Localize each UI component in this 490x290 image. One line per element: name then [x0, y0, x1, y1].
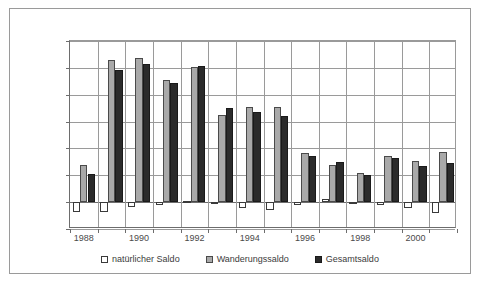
x-axis-tick: [125, 229, 126, 233]
x-axis-tick: [346, 229, 347, 233]
gridline-x: [429, 41, 430, 227]
bar-1997-series-2: [336, 162, 343, 202]
bar-1996-series-0: [294, 202, 301, 205]
gridline-x: [181, 41, 182, 227]
gridline-y: [70, 68, 455, 69]
bar-1999-series-2: [392, 158, 399, 202]
x-axis-tick-label: 1996: [277, 234, 332, 243]
bar-1997-series-1: [329, 165, 336, 203]
bar-1989-series-1: [108, 60, 115, 202]
gridline-y: [70, 95, 455, 96]
bar-1989-series-2: [115, 70, 122, 202]
bar-1988-series-2: [88, 174, 95, 202]
x-axis-tick: [319, 229, 320, 233]
bar-1989-series-0: [100, 202, 107, 211]
gridline-x: [125, 41, 126, 227]
y-axis-tick: [66, 175, 70, 176]
gridline-x: [319, 41, 320, 227]
x-axis-tick: [236, 229, 237, 233]
chart-frame: 120.000100.00080.00060.00040.00020.0000-…: [9, 8, 471, 274]
bar-1999-series-1: [384, 156, 391, 202]
bar-2000-series-0: [404, 202, 411, 207]
bar-1993-series-0: [211, 202, 218, 204]
bar-1998-series-1: [357, 173, 364, 203]
bar-2000-series-2: [419, 166, 426, 202]
x-axis-tick: [374, 229, 375, 233]
bar-1990-series-2: [143, 64, 150, 202]
bar-1995-series-2: [281, 116, 288, 203]
x-axis-tick-label: 2000: [388, 234, 443, 243]
x-axis-tick-label: 1990: [111, 234, 166, 243]
legend-item-0[interactable]: natürlicher Saldo: [101, 254, 180, 264]
chart-legend: natürlicher SaldoWanderungssaldoGesamtsa…: [10, 254, 470, 264]
bar-1991-series-1: [163, 80, 170, 202]
bar-1991-series-2: [170, 83, 177, 202]
gridline-y: [70, 122, 455, 123]
bar-1991-series-0: [156, 202, 163, 205]
x-axis-tick-label: 1988: [56, 234, 111, 243]
x-axis-tick: [429, 229, 430, 233]
y-axis-tick: [66, 41, 70, 42]
bar-2001-series-2: [447, 163, 454, 203]
x-axis-tick-label: 1992: [167, 234, 222, 243]
legend-swatch-icon: [101, 256, 108, 263]
x-axis-tick: [70, 229, 71, 233]
gridline-x: [153, 41, 154, 227]
bar-1992-series-1: [191, 67, 198, 203]
bar-1994-series-0: [239, 202, 246, 207]
legend-item-1[interactable]: Wanderungssaldo: [206, 254, 289, 264]
legend-label: Gesamtsaldo: [326, 254, 379, 264]
bar-1994-series-2: [253, 112, 260, 202]
gridline-x: [236, 41, 237, 227]
gridline-x: [264, 41, 265, 227]
x-axis-tick: [98, 229, 99, 233]
gridline-x: [402, 41, 403, 227]
plot-area: 120.000100.00080.00060.00040.00020.0000-…: [69, 40, 456, 228]
legend-label: natürlicher Saldo: [112, 254, 180, 264]
legend-label: Wanderungssaldo: [217, 254, 289, 264]
bar-1997-series-0: [322, 199, 329, 202]
bar-1995-series-0: [266, 202, 273, 210]
bar-1993-series-2: [226, 108, 233, 202]
bar-1998-series-2: [364, 175, 371, 203]
bar-1992-series-0: [183, 201, 190, 203]
y-axis-tick: [66, 68, 70, 69]
bar-1999-series-0: [377, 202, 384, 205]
gridline-y: [70, 229, 455, 230]
x-axis-tick: [181, 229, 182, 233]
legend-swatch-icon: [206, 256, 213, 263]
bar-2001-series-0: [432, 202, 439, 213]
x-axis-tick-label: 1998: [333, 234, 388, 243]
x-axis-tick: [457, 229, 458, 233]
gridline-y: [70, 148, 455, 149]
bar-1988-series-1: [80, 165, 87, 203]
y-axis-tick: [66, 122, 70, 123]
y-axis-tick: [66, 148, 70, 149]
x-axis-tick: [208, 229, 209, 233]
bar-1996-series-2: [309, 156, 316, 202]
gridline-x: [291, 41, 292, 227]
gridline-y: [70, 41, 455, 42]
x-axis-tick: [153, 229, 154, 233]
x-axis-tick-label: 1994: [222, 234, 277, 243]
y-axis-tick: [66, 95, 70, 96]
legend-item-2[interactable]: Gesamtsaldo: [315, 254, 379, 264]
gridline-x: [374, 41, 375, 227]
x-axis-tick: [264, 229, 265, 233]
gridline-x: [208, 41, 209, 227]
bar-2000-series-1: [412, 161, 419, 202]
bar-1992-series-2: [198, 66, 205, 202]
bar-1994-series-1: [246, 107, 253, 202]
x-axis-tick: [291, 229, 292, 233]
gridline-x: [346, 41, 347, 227]
bar-1993-series-1: [218, 115, 225, 202]
gridline-x: [98, 41, 99, 227]
bar-1990-series-0: [128, 202, 135, 207]
bar-2001-series-1: [439, 152, 446, 202]
x-axis-tick: [402, 229, 403, 233]
bar-1998-series-0: [349, 202, 356, 204]
legend-swatch-icon: [315, 256, 322, 263]
bar-1996-series-1: [301, 153, 308, 202]
bar-1990-series-1: [135, 58, 142, 202]
y-axis-tick: [66, 202, 70, 203]
